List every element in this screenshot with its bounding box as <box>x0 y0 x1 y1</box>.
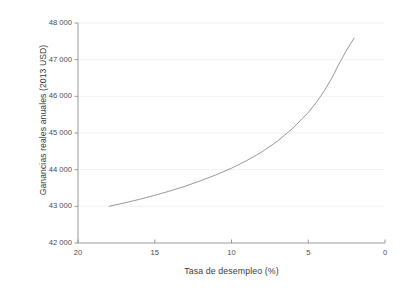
gridlines <box>78 23 385 206</box>
y-tick-marks <box>75 23 79 243</box>
x-tick-marks <box>78 240 385 244</box>
plot-area <box>0 0 409 295</box>
data-series-line <box>109 38 355 207</box>
chart-figure: Ganancias reales anuales (2013 USD) Tasa… <box>0 0 409 295</box>
